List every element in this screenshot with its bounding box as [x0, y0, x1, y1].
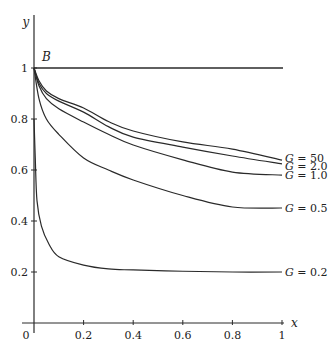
series-label-g: G: [285, 202, 297, 215]
series-label: G = 0.5: [285, 202, 328, 215]
series-label-value: = 1.0: [297, 169, 327, 182]
x-tick-label: 0.4: [124, 329, 142, 342]
series-curve: [34, 68, 282, 208]
x-tick-label: 0.8: [224, 329, 242, 342]
x-tick-label: 1: [279, 329, 286, 342]
chart-svg: 00.20.40.60.810.20.40.60.81 yxBG = 50G =…: [0, 0, 331, 358]
series-label: G = 1.0: [285, 169, 328, 182]
x-tick-label: 0.6: [174, 329, 192, 342]
series-label-g: G: [285, 169, 297, 182]
series-curve: [34, 68, 282, 175]
y-axis-label: y: [22, 15, 30, 29]
x-tick-label: 0.2: [75, 329, 93, 342]
x-axis-label: x: [291, 316, 298, 330]
y-tick-label: 0.6: [11, 164, 29, 177]
y-tick-label: 1: [21, 62, 28, 75]
axes: 00.20.40.60.810.20.40.60.81: [11, 15, 286, 342]
x-tick-label: 0: [23, 329, 30, 342]
series-label-g: G: [285, 266, 297, 279]
labels: yxBG = 50G = 2.0G = 1.0G = 0.5G = 0.2: [22, 15, 328, 330]
y-tick-label: 0.8: [11, 113, 29, 126]
line-chart: 00.20.40.60.810.20.40.60.81 yxBG = 50G =…: [0, 0, 331, 358]
series-label-value: = 0.2: [297, 266, 327, 279]
series-label: G = 0.2: [285, 266, 328, 279]
y-tick-label: 0.4: [11, 215, 29, 228]
curves: [34, 68, 283, 272]
point-b-label: B: [41, 50, 51, 64]
series-label-value: = 0.5: [297, 202, 327, 215]
y-tick-label: 0.2: [11, 266, 29, 279]
